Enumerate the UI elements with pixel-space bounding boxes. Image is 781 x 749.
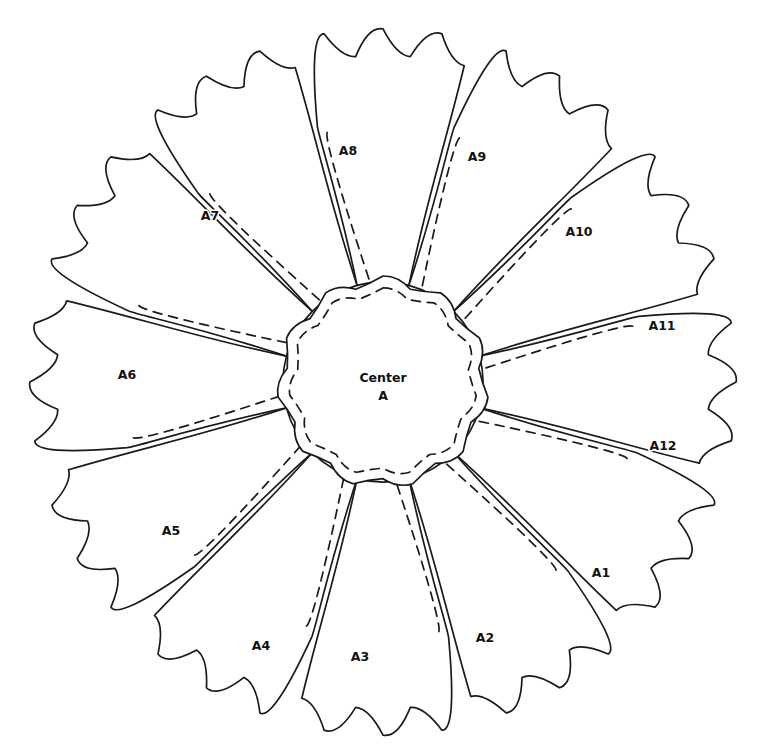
petal-label-a10: A10 bbox=[565, 224, 592, 239]
petal-label-a6: A6 bbox=[118, 367, 137, 382]
petal-label-a1: A1 bbox=[592, 565, 610, 580]
petal-label-a2: A2 bbox=[476, 630, 494, 645]
center-label-line: A bbox=[378, 388, 388, 403]
pattern-canvas: A1A2A3A4A5A6A7A8A9A10A11A12CenterA bbox=[0, 0, 781, 749]
petal-label-a12: A12 bbox=[649, 438, 676, 453]
petal-label-a4: A4 bbox=[252, 638, 271, 653]
petal-label-a5: A5 bbox=[162, 523, 180, 538]
flower-pattern-svg: A1A2A3A4A5A6A7A8A9A10A11A12CenterA bbox=[0, 0, 781, 749]
center-label-line: Center bbox=[359, 370, 407, 385]
petal-label-a9: A9 bbox=[468, 149, 486, 164]
petal-label-a7: A7 bbox=[201, 208, 219, 223]
petal-label-a3: A3 bbox=[351, 649, 369, 664]
petal-label-a11: A11 bbox=[648, 318, 675, 333]
petal-label-a8: A8 bbox=[339, 143, 357, 158]
